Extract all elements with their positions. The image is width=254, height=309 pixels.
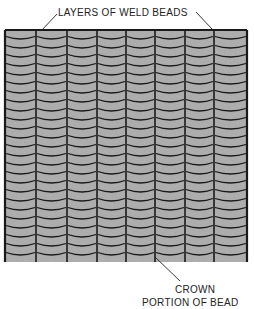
weld-bead-diagram <box>0 0 254 309</box>
weld-panel <box>5 30 247 262</box>
top-leader-right <box>196 12 212 29</box>
top-leader-left <box>41 14 57 31</box>
portion-of-bead-label: PORTION OF BEAD <box>142 297 239 308</box>
crown-label: CROWN <box>175 284 215 295</box>
layers-of-weld-beads-label: LAYERS OF WELD BEADS <box>58 7 188 18</box>
